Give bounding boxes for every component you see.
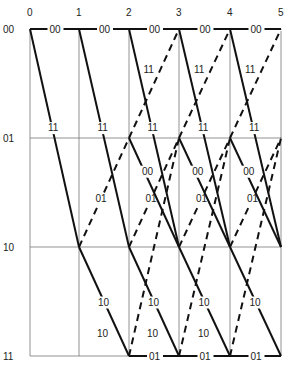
time-label: 3 (176, 7, 182, 18)
branch-label: 10 (198, 328, 210, 339)
branch-label: 10 (147, 328, 159, 339)
trellis-diagram: 0123450001101100110011100100111001110001… (0, 0, 293, 366)
branch-label: 00 (200, 24, 212, 35)
state-label: 00 (3, 24, 15, 35)
state-label: 01 (3, 133, 15, 144)
branch-label: 11 (245, 64, 256, 75)
time-label: 2 (126, 7, 132, 18)
branch-label: 10 (98, 297, 110, 308)
time-label: 0 (27, 7, 33, 18)
branch-label: 11 (98, 122, 109, 133)
state-label: 10 (3, 242, 15, 253)
branch-label: 00 (192, 166, 204, 177)
branch-label: 11 (198, 122, 209, 133)
time-label: 1 (76, 7, 82, 18)
branch-label: 00 (142, 166, 154, 177)
branch-label: 11 (194, 64, 205, 75)
branch-label: 01 (149, 351, 161, 362)
time-label: 4 (227, 7, 233, 18)
time-label: 5 (278, 7, 284, 18)
branch-label: 00 (243, 166, 255, 177)
branch-label: 00 (99, 24, 111, 35)
branch-label: 11 (249, 122, 260, 133)
branch-label: 11 (48, 122, 59, 133)
branch-label: 10 (0, 0, 12, 2)
branch-label: 00 (149, 24, 161, 35)
branch-label: 01 (200, 351, 212, 362)
branch-label: 01 (96, 193, 108, 204)
branch-label: 10 (250, 297, 262, 308)
branch-label: 01 (251, 351, 263, 362)
branch-label: 11 (144, 64, 155, 75)
branch-label: 10 (97, 328, 109, 339)
branch-label: 00 (251, 24, 263, 35)
branch-label: 11 (148, 122, 159, 133)
branch-label: 10 (199, 297, 211, 308)
branch-label: 00 (50, 24, 62, 35)
branch-label: 10 (148, 297, 160, 308)
state-label: 11 (3, 351, 14, 362)
